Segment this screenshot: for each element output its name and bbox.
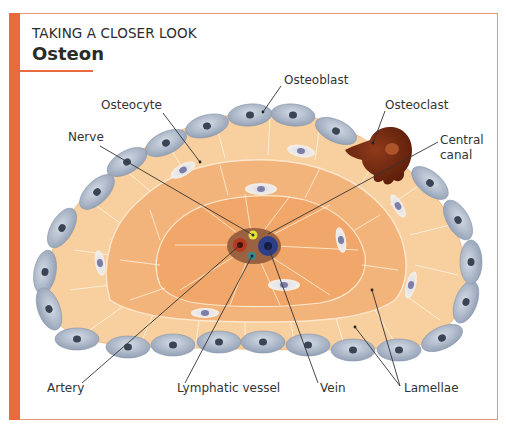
label-central-canal-line1: Central [440,133,484,147]
label-artery: Artery [47,381,84,395]
osteon-illustration [0,0,506,425]
label-central-canal-line2: canal [440,148,472,162]
label-vein: Vein [320,381,346,395]
label-nerve: Nerve [68,130,104,144]
label-osteoblast: Osteoblast [284,73,348,87]
label-osteoclast: Osteoclast [385,98,448,112]
label-lamellae: Lamellae [404,381,459,395]
label-lymphatic-vessel: Lymphatic vessel [177,381,280,395]
label-osteocyte: Osteocyte [101,98,162,112]
